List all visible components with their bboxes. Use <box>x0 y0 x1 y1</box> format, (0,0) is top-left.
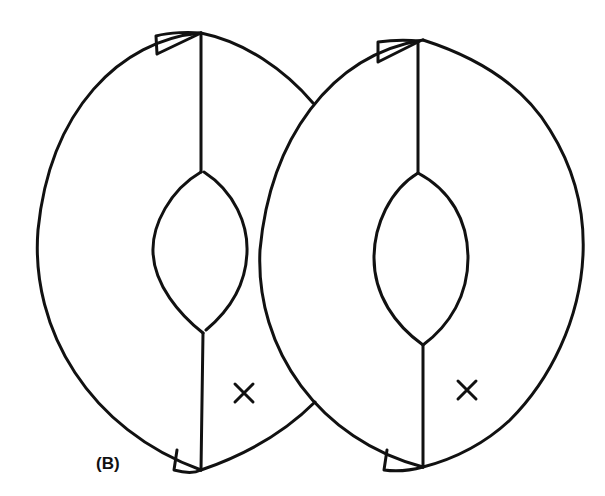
left-donut-x-mark <box>235 384 253 402</box>
left-donut <box>37 32 315 472</box>
panel-label: (B) <box>96 454 120 474</box>
left-donut-outer-right-top-arc <box>201 33 313 103</box>
right-donut <box>260 40 584 471</box>
right-donut-x-mark <box>458 381 476 399</box>
left-donut-outer-right-bottom-arc <box>201 402 315 470</box>
diagram-canvas <box>0 0 605 496</box>
left-donut-inner-lens <box>153 172 247 333</box>
right-donut-outer-right-arc <box>423 40 583 467</box>
right-donut-outer-left-arc <box>260 40 423 467</box>
right-donut-inner-lens <box>374 173 468 345</box>
left-donut-divider-bottom <box>201 333 203 470</box>
left-donut-outer-left-arc <box>37 33 201 470</box>
